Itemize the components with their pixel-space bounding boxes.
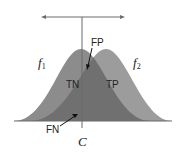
roc-threshold-diagram: f1 f2 FP TN TP FN C bbox=[0, 0, 182, 153]
label-tp: TP bbox=[106, 79, 119, 90]
arrow-left-icon bbox=[41, 15, 46, 19]
label-f2: f2 bbox=[133, 55, 141, 71]
label-f1: f1 bbox=[38, 55, 46, 71]
label-fp: FP bbox=[91, 37, 104, 48]
label-threshold-c: C bbox=[78, 134, 87, 149]
arrow-right-icon bbox=[120, 15, 125, 19]
label-fn: FN bbox=[46, 124, 59, 135]
label-tn: TN bbox=[66, 79, 79, 90]
